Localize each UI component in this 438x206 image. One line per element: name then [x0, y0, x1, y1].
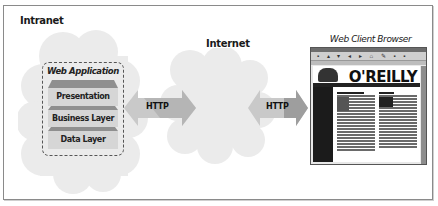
page-column-right — [379, 90, 417, 160]
http-label-2: HTTP — [266, 102, 288, 111]
browser-address-bar — [311, 61, 426, 65]
presentation-layer: Presentation Layer — [48, 88, 118, 106]
web-application-title: Web Application — [43, 66, 123, 76]
web-client-browser-label: Web Client Browser — [313, 34, 428, 44]
browser-page: O'REILLY — [313, 66, 420, 162]
mascot-image — [318, 68, 338, 82]
intranet-label: Intranet — [20, 15, 64, 26]
page-sidebar — [313, 87, 333, 162]
business-layer: Business Layer — [48, 110, 118, 127]
internet-label: Internet — [206, 38, 250, 49]
web-application-box: Web Application Presentation Layer Busin… — [42, 62, 124, 156]
layer-cap-top — [48, 80, 118, 88]
browser-toolbar: ▪ ▴ ▾ ◂ ▸ ⌂ ✎ ▪ ▪ — [311, 52, 426, 61]
browser-scrollbar — [421, 66, 426, 164]
http-label-1: HTTP — [146, 102, 168, 111]
page-column-left — [337, 90, 375, 160]
browser-screenshot: ▪ ▴ ▾ ◂ ▸ ⌂ ✎ ▪ ▪ O'REILLY — [310, 47, 427, 165]
data-layer: Data Layer — [48, 131, 118, 149]
